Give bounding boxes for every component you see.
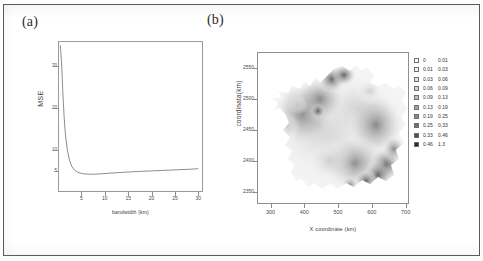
legend-swatch [414,142,419,147]
panel-a-x-tick-label: 15 [120,196,136,201]
legend-row: 0.030.06 [414,75,476,84]
legend-swatch [414,114,419,119]
legend-range-low: 0.06 [423,86,438,91]
panel-b-x-tick-label: 500 [328,210,348,216]
panel-a-y-tick-mark [54,150,58,151]
legend-row: 0.010.03 [414,65,476,74]
panel-a-y-tick-mark [54,171,58,172]
panel-b-x-tick-mark [372,204,373,208]
panel-a-x-tick-label: 10 [97,196,113,201]
panel-b-y-tick-label: 2500 [230,96,254,101]
panel-b-x-tick-label: 700 [396,210,416,216]
legend-row: 0.250.33 [414,121,476,130]
panel-b-x-tick-mark [338,204,339,208]
legend-range-high: 0.46 [438,133,455,138]
legend-range-high: 0.01 [438,58,455,63]
panel-b-y-tick-label: 2450 [230,127,254,132]
legend-row: 0.060.09 [414,84,476,93]
legend-swatch [414,123,419,128]
density-legend: 00.010.010.030.030.060.060.090.090.130.1… [414,56,476,149]
density-field [258,53,408,203]
legend-range-high: 0.13 [438,95,455,100]
legend-range-high: 0.06 [438,77,455,82]
panel-a-x-tick-mark [152,192,153,196]
legend-range-high: 0.25 [438,114,455,119]
mse-curve [58,41,203,192]
legend-swatch [414,133,419,138]
density-blob [288,95,308,115]
legend-range-low: 0.13 [423,105,438,110]
panel-b-density-map: coordinata(km) X coordinate (km) 2350240… [214,30,476,245]
panel-b-y-tick-label: 2400 [230,158,254,163]
legend-row: 0.190.25 [414,112,476,121]
panel-b-x-tick-label: 400 [294,210,314,216]
panel-b-x-tick-label: 300 [261,210,281,216]
panel-b-plot-area [257,52,409,204]
legend-row: 0.461.3 [414,140,476,149]
legend-row: 0.330.46 [414,130,476,139]
legend-swatch [414,77,419,82]
panel-a-x-axis-title: bandwidth (km) [58,209,203,215]
density-blob [382,135,406,163]
density-blob [331,63,357,87]
density-blob [341,176,359,194]
legend-range-low: 0.09 [423,95,438,100]
panel-b-x-tick-mark [406,204,407,208]
panel-b-label: (b) [207,12,224,28]
density-blob [276,113,300,141]
panel-a-x-tick-mark [105,192,106,196]
panel-a-x-tick-mark [198,192,199,196]
panel-b-y-tick-label: 2350 [230,189,254,194]
legend-swatch [414,58,419,63]
legend-swatch [414,86,419,91]
legend-row: 00.01 [414,56,476,65]
panel-a-x-tick-mark [128,192,129,196]
panel-b-y-tick-mark [253,161,257,162]
panel-b-y-tick-mark [253,99,257,100]
legend-range-low: 0.19 [423,114,438,119]
legend-range-high: 0.03 [438,67,455,72]
panel-a-y-tick-mark [54,66,58,67]
legend-range-low: 0.01 [423,67,438,72]
panel-b-x-tick-mark [271,204,272,208]
panel-b-x-tick-label: 600 [362,210,382,216]
legend-range-high: 0.19 [438,105,455,110]
panel-b-y-tick-mark [253,68,257,69]
legend-range-high: 0.33 [438,123,455,128]
legend-range-low: 0 [423,58,438,63]
panel-a-y-tick-mark [54,108,58,109]
legend-row: 0.130.19 [414,102,476,111]
legend-range-low: 0.46 [423,142,438,147]
panel-b-y-tick-label: 2550 [230,65,254,70]
figure-page: (a) (b) MSE bandwidth (km) 5102030 51015… [0,0,483,261]
panel-a-mse-chart: MSE bandwidth (km) 5102030 51015202530 [14,33,204,233]
legend-row: 0.090.13 [414,93,476,102]
panel-b-y-tick-mark [253,130,257,131]
panel-b-x-tick-mark [304,204,305,208]
legend-range-low: 0.33 [423,133,438,138]
legend-range-low: 0.25 [423,123,438,128]
density-blob [356,78,384,104]
legend-swatch [414,67,419,72]
legend-range-high: 1.3 [438,142,455,147]
panel-a-x-tick-label: 30 [190,196,206,201]
panel-a-label: (a) [22,14,38,30]
panel-a-y-axis-title: MSE [37,69,44,129]
legend-range-low: 0.03 [423,77,438,82]
panel-a-x-tick-label: 5 [73,196,89,201]
legend-range-high: 0.09 [438,86,455,91]
panel-a-x-tick-mark [81,192,82,196]
legend-swatch [414,95,419,100]
panel-b-x-axis-title: X coordinate (km) [257,226,409,232]
legend-swatch [414,105,419,110]
panel-b-y-tick-mark [253,192,257,193]
density-map-raster [258,53,408,203]
panel-a-x-tick-mark [175,192,176,196]
panel-a-x-tick-label: 25 [167,196,183,201]
density-blob [310,103,326,119]
panel-a-x-tick-label: 20 [144,196,160,201]
